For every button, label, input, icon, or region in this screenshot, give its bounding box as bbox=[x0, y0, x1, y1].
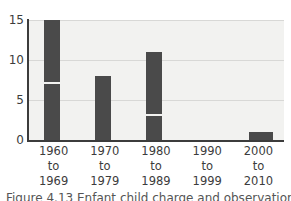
y-tick-label-5: 5 bbox=[0, 94, 24, 106]
x-tick-line-2: to bbox=[28, 159, 79, 174]
x-tick-line-1: 2000 bbox=[233, 144, 284, 159]
x-tick-line-1: 1970 bbox=[79, 144, 130, 159]
x-tick-label-1960-1969: 1960 to 1969 bbox=[28, 144, 79, 190]
bar-2000-2010 bbox=[249, 132, 273, 140]
x-tick-label-1970-1979: 1970 to 1979 bbox=[79, 144, 130, 190]
x-tick-label-2000-2010: 2000 to 2010 bbox=[233, 144, 284, 190]
x-tick-line-3: 1969 bbox=[28, 174, 79, 189]
bar-segment-separator bbox=[44, 82, 60, 84]
x-tick-label-1990-1999: 1990 to 1999 bbox=[182, 144, 233, 190]
x-tick-label-1980-1989: 1980 to 1989 bbox=[130, 144, 181, 190]
x-tick-line-1: 1960 bbox=[28, 144, 79, 159]
x-tick-line-1: 1980 bbox=[130, 144, 181, 159]
x-tick-line-2: to bbox=[182, 159, 233, 174]
x-tick-line-2: to bbox=[233, 159, 284, 174]
plot-area bbox=[28, 20, 284, 140]
gridline-15 bbox=[28, 20, 284, 21]
x-tick-line-3: 2010 bbox=[233, 174, 284, 189]
bar-1960-1969 bbox=[44, 20, 60, 140]
figure-caption: Figure 4.13 Enfant child charge and obse… bbox=[6, 191, 291, 201]
x-tick-line-3: 1989 bbox=[130, 174, 181, 189]
x-axis-line bbox=[27, 140, 284, 142]
y-tick-label-10: 10 bbox=[0, 54, 24, 66]
x-tick-line-3: 1999 bbox=[182, 174, 233, 189]
x-tick-line-3: 1979 bbox=[79, 174, 130, 189]
bar-segment-separator bbox=[146, 114, 162, 116]
y-axis-line bbox=[27, 19, 29, 141]
bar-1970-1979 bbox=[95, 76, 111, 140]
bar-1980-1989 bbox=[146, 52, 162, 140]
y-tick-label-15: 15 bbox=[0, 14, 24, 26]
x-tick-line-2: to bbox=[130, 159, 181, 174]
x-tick-line-2: to bbox=[79, 159, 130, 174]
y-tick-label-0: 0 bbox=[0, 134, 24, 146]
y-axis-ticks: 15 10 5 0 bbox=[0, 0, 24, 201]
x-tick-line-1: 1990 bbox=[182, 144, 233, 159]
bar-chart-figure: 15 10 5 0 1960 to 1969 1970 to 1979 1980… bbox=[0, 0, 291, 201]
x-axis-ticks: 1960 to 1969 1970 to 1979 1980 to 1989 1… bbox=[28, 144, 284, 190]
